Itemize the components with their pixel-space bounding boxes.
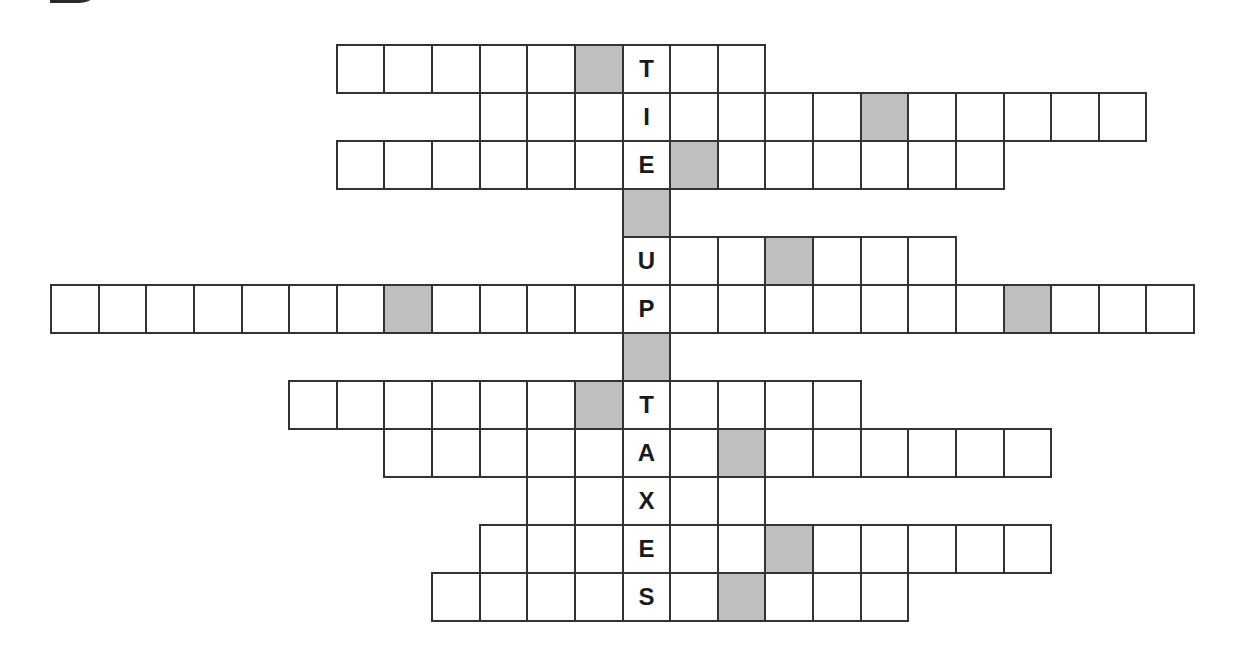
answer-cell[interactable] bbox=[574, 476, 624, 526]
answer-cell[interactable] bbox=[907, 284, 957, 334]
answer-cell[interactable] bbox=[669, 284, 719, 334]
answer-cell[interactable] bbox=[574, 572, 624, 622]
answer-cell[interactable] bbox=[1050, 92, 1100, 142]
answer-cell[interactable] bbox=[50, 284, 100, 334]
answer-cell[interactable] bbox=[574, 284, 624, 334]
answer-cell[interactable] bbox=[717, 380, 766, 430]
answer-cell[interactable] bbox=[193, 284, 243, 334]
answer-cell[interactable] bbox=[574, 140, 624, 190]
answer-cell[interactable] bbox=[383, 380, 433, 430]
answer-cell[interactable] bbox=[812, 380, 862, 430]
answer-cell[interactable] bbox=[1145, 284, 1195, 334]
answer-cell[interactable] bbox=[669, 44, 719, 94]
answer-cell[interactable] bbox=[479, 428, 528, 478]
answer-cell[interactable] bbox=[1003, 428, 1052, 478]
answer-cell[interactable] bbox=[955, 428, 1005, 478]
answer-cell[interactable] bbox=[288, 380, 338, 430]
answer-cell[interactable] bbox=[1003, 92, 1052, 142]
answer-cell[interactable] bbox=[479, 92, 528, 142]
answer-cell[interactable] bbox=[431, 284, 481, 334]
answer-cell[interactable] bbox=[479, 284, 528, 334]
answer-cell[interactable] bbox=[526, 572, 576, 622]
answer-cell[interactable] bbox=[764, 92, 814, 142]
answer-cell[interactable] bbox=[860, 236, 909, 286]
answer-cell[interactable] bbox=[764, 428, 814, 478]
answer-cell[interactable] bbox=[479, 140, 528, 190]
answer-cell[interactable] bbox=[860, 284, 909, 334]
answer-cell[interactable] bbox=[764, 572, 814, 622]
answer-cell[interactable] bbox=[383, 140, 433, 190]
answer-cell[interactable] bbox=[955, 284, 1005, 334]
answer-cell[interactable] bbox=[336, 44, 385, 94]
answer-cell[interactable] bbox=[764, 284, 814, 334]
answer-cell[interactable] bbox=[669, 236, 719, 286]
answer-cell[interactable] bbox=[479, 380, 528, 430]
answer-cell[interactable] bbox=[574, 92, 624, 142]
answer-cell[interactable] bbox=[812, 572, 862, 622]
answer-cell[interactable] bbox=[860, 524, 909, 574]
answer-cell[interactable] bbox=[860, 572, 909, 622]
answer-cell[interactable] bbox=[241, 284, 290, 334]
answer-cell[interactable] bbox=[431, 572, 481, 622]
answer-cell[interactable] bbox=[860, 428, 909, 478]
answer-cell[interactable] bbox=[336, 284, 385, 334]
answer-cell[interactable] bbox=[717, 524, 766, 574]
answer-cell[interactable] bbox=[288, 284, 338, 334]
answer-cell[interactable] bbox=[669, 572, 719, 622]
answer-cell[interactable] bbox=[717, 44, 766, 94]
answer-cell[interactable] bbox=[479, 572, 528, 622]
answer-cell[interactable] bbox=[955, 140, 1005, 190]
answer-cell[interactable] bbox=[336, 380, 385, 430]
answer-cell[interactable] bbox=[1098, 284, 1147, 334]
answer-cell[interactable] bbox=[526, 140, 576, 190]
answer-cell[interactable] bbox=[431, 380, 481, 430]
answer-cell[interactable] bbox=[669, 476, 719, 526]
answer-cell[interactable] bbox=[431, 428, 481, 478]
answer-cell[interactable] bbox=[526, 284, 576, 334]
answer-cell[interactable] bbox=[98, 284, 147, 334]
answer-cell[interactable] bbox=[812, 524, 862, 574]
answer-cell[interactable] bbox=[431, 140, 481, 190]
answer-cell[interactable] bbox=[812, 92, 862, 142]
answer-cell[interactable] bbox=[907, 428, 957, 478]
answer-cell[interactable] bbox=[431, 44, 481, 94]
answer-cell[interactable] bbox=[526, 524, 576, 574]
answer-cell[interactable] bbox=[907, 524, 957, 574]
answer-cell[interactable] bbox=[1098, 92, 1147, 142]
answer-cell[interactable] bbox=[764, 140, 814, 190]
answer-cell[interactable] bbox=[1050, 284, 1100, 334]
answer-cell[interactable] bbox=[955, 524, 1005, 574]
answer-cell[interactable] bbox=[717, 236, 766, 286]
answer-cell[interactable] bbox=[907, 140, 957, 190]
answer-cell[interactable] bbox=[479, 44, 528, 94]
answer-cell[interactable] bbox=[526, 92, 576, 142]
answer-cell[interactable] bbox=[1003, 524, 1052, 574]
answer-cell[interactable] bbox=[860, 140, 909, 190]
answer-cell[interactable] bbox=[812, 236, 862, 286]
answer-cell[interactable] bbox=[669, 380, 719, 430]
answer-cell[interactable] bbox=[574, 524, 624, 574]
answer-cell[interactable] bbox=[812, 428, 862, 478]
answer-cell[interactable] bbox=[383, 428, 433, 478]
answer-cell[interactable] bbox=[717, 92, 766, 142]
answer-cell[interactable] bbox=[669, 428, 719, 478]
answer-cell[interactable] bbox=[717, 476, 766, 526]
answer-cell[interactable] bbox=[526, 476, 576, 526]
answer-cell[interactable] bbox=[145, 284, 195, 334]
answer-cell[interactable] bbox=[669, 524, 719, 574]
answer-cell[interactable] bbox=[383, 44, 433, 94]
answer-cell[interactable] bbox=[764, 380, 814, 430]
answer-cell[interactable] bbox=[336, 140, 385, 190]
answer-cell[interactable] bbox=[717, 140, 766, 190]
answer-cell[interactable] bbox=[907, 92, 957, 142]
answer-cell[interactable] bbox=[717, 284, 766, 334]
answer-cell[interactable] bbox=[812, 140, 862, 190]
answer-cell[interactable] bbox=[669, 92, 719, 142]
answer-cell[interactable] bbox=[526, 380, 576, 430]
answer-cell[interactable] bbox=[812, 284, 862, 334]
answer-cell[interactable] bbox=[955, 92, 1005, 142]
answer-cell[interactable] bbox=[907, 236, 957, 286]
answer-cell[interactable] bbox=[526, 44, 576, 94]
answer-cell[interactable] bbox=[574, 428, 624, 478]
answer-cell[interactable] bbox=[479, 524, 528, 574]
